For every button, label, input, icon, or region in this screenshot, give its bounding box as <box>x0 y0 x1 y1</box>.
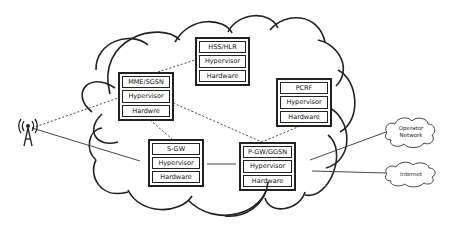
internet-label: Internet <box>392 171 430 178</box>
node-hss-hlr: HSS/HLR Hypervisor Hardware <box>195 37 250 86</box>
hypervisor-label: Hypervisor <box>199 55 246 67</box>
vnf-label: S-GW <box>152 143 200 155</box>
hardware-label: Hardwre <box>122 105 170 117</box>
operator-network-label: Operator Network <box>392 125 430 139</box>
hypervisor-label: Hypervisor <box>280 96 328 108</box>
diagram-canvas <box>0 0 456 235</box>
mme-to-pgw-link <box>173 103 262 142</box>
pgw-to-internet-link <box>312 171 386 173</box>
vnf-label: P-GW/GGSN <box>243 146 292 158</box>
pgw-to-operator-link <box>310 132 386 160</box>
node-p-gw-ggsn: P-GW/GGSN Hypervisor Hardware <box>239 142 296 191</box>
hypervisor-label: Hypervisor <box>152 157 200 169</box>
node-pcrf: PCRF Hypervisor Hardware <box>276 78 332 127</box>
antenna-to-mme-link <box>32 98 118 128</box>
hardware-label: Hardware <box>243 175 292 187</box>
operator-network-line1: Operator <box>392 125 430 132</box>
node-mme-sgsn: MME/SGSN Hypervisor Hardwre <box>118 72 174 121</box>
antenna-to-sgw-link <box>32 128 140 161</box>
hypervisor-label: Hypervisor <box>243 160 292 172</box>
operator-network-line2: Network <box>392 132 430 139</box>
mme-to-hss-link <box>158 60 195 72</box>
hardware-label: Hardware <box>280 111 328 123</box>
hardware-label: Hardware <box>199 70 246 82</box>
cell-tower-icon <box>19 119 38 146</box>
mme-to-sgw-link <box>150 120 172 139</box>
hypervisor-label: Hypervisor <box>122 90 170 102</box>
vnf-label: HSS/HLR <box>199 41 246 53</box>
node-s-gw: S-GW Hypervisor Hardware <box>148 139 204 187</box>
hardware-label: Hardware <box>152 171 200 183</box>
vnf-label: MME/SGSN <box>122 76 170 88</box>
vnf-label: PCRF <box>280 82 328 94</box>
pcrf-to-pgw-link <box>262 126 300 142</box>
